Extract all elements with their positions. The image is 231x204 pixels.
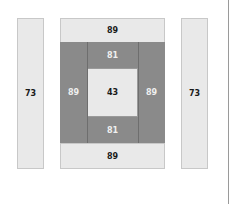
left-frame: 89 — [60, 42, 87, 143]
bottom-band: 89 — [60, 143, 165, 169]
right-frame-value: 89 — [146, 88, 157, 97]
vertical-rule — [228, 0, 229, 204]
bottom-inner-value: 81 — [107, 126, 118, 135]
top-band: 89 — [60, 18, 165, 43]
bottom-inner: 81 — [87, 117, 138, 143]
bottom-band-value: 89 — [107, 152, 118, 161]
divider-left — [87, 42, 88, 143]
center-cell: 43 — [87, 68, 138, 117]
left-strip: 73 — [17, 18, 44, 169]
divider-right — [138, 42, 139, 143]
center-value: 43 — [107, 88, 118, 97]
right-strip-value: 73 — [189, 89, 200, 98]
top-inner-value: 81 — [107, 51, 118, 60]
left-strip-value: 73 — [25, 89, 36, 98]
left-frame-value: 89 — [68, 88, 79, 97]
right-frame: 89 — [138, 42, 165, 143]
right-strip: 73 — [181, 18, 208, 169]
top-inner: 81 — [87, 42, 138, 68]
top-band-value: 89 — [107, 26, 118, 35]
